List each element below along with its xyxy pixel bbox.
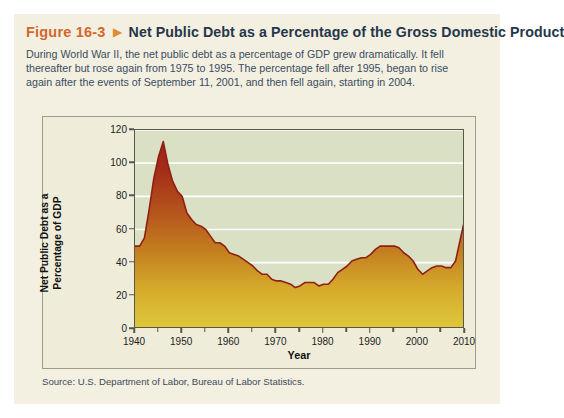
y-axis-tick <box>129 261 134 263</box>
x-axis-minor-tick <box>204 328 206 332</box>
y-axis-tick <box>129 161 134 163</box>
x-axis-tick <box>322 328 324 333</box>
x-axis-label: 1980 <box>311 336 333 347</box>
figure-caption: During World War II, the net public debt… <box>26 47 468 90</box>
y-axis-label: 80 <box>116 190 127 201</box>
x-axis-tick <box>369 328 371 333</box>
plot-area <box>134 129 464 328</box>
x-axis-label: 2000 <box>406 336 428 347</box>
triangle-right-icon: ▶ <box>113 26 122 38</box>
y-axis-tick <box>129 195 134 197</box>
x-axis-label: 1990 <box>359 336 381 347</box>
x-axis-minor-tick <box>440 328 442 332</box>
y-axis-tick <box>129 294 134 296</box>
figure-card: Figure 16-3 ▶ Net Public Debt as a Perce… <box>14 14 500 404</box>
x-axis-minor-tick <box>393 328 395 332</box>
x-axis-minor-tick <box>298 328 300 332</box>
chart-panel: Net Public Debt as aPercentage of GDP 02… <box>42 116 476 369</box>
y-axis-label: 40 <box>116 256 127 267</box>
x-axis-minor-tick <box>251 328 253 332</box>
plot-area-wrapper: 0204060801001201940195019601970198019902… <box>134 129 464 328</box>
y-axis-label: 20 <box>116 289 127 300</box>
y-axis-label: 100 <box>110 157 127 168</box>
x-axis-label: 2010 <box>453 336 475 347</box>
y-axis-tick <box>129 228 134 230</box>
x-axis-label: 1960 <box>217 336 239 347</box>
y-axis-label: 120 <box>110 124 127 135</box>
x-axis-title: Year <box>134 349 464 361</box>
x-axis-tick <box>180 328 182 333</box>
figure-source: Source: U.S. Department of Labor, Bureau… <box>42 376 304 387</box>
y-axis-title: Net Public Debt as aPercentage of GDP <box>38 183 64 303</box>
x-axis-tick <box>133 328 135 333</box>
figure-number: Figure 16-3 <box>26 24 106 40</box>
x-axis-tick <box>416 328 418 333</box>
y-axis-label: 60 <box>116 223 127 234</box>
x-axis-tick <box>463 328 465 333</box>
y-axis-label: 0 <box>121 323 127 334</box>
x-axis-tick <box>275 328 277 333</box>
x-axis-minor-tick <box>157 328 159 332</box>
figure-title: Net Public Debt as a Percentage of the G… <box>129 24 564 40</box>
x-axis-label: 1970 <box>264 336 286 347</box>
x-axis-label: 1950 <box>170 336 192 347</box>
debt-area-chart <box>135 130 464 328</box>
figure-heading: Figure 16-3 ▶ Net Public Debt as a Perce… <box>26 24 488 40</box>
x-axis-minor-tick <box>345 328 347 332</box>
figure-inner: Figure 16-3 ▶ Net Public Debt as a Perce… <box>26 24 488 396</box>
y-axis-tick <box>129 128 134 130</box>
x-axis-label: 1940 <box>123 336 145 347</box>
x-axis-tick <box>228 328 230 333</box>
